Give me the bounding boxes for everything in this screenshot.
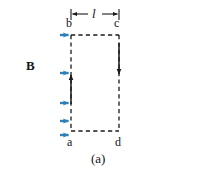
- magnetic-field-label: B: [26, 59, 35, 72]
- vertex-label-c: c: [114, 17, 119, 29]
- magnetic-field-lines: [14, 35, 205, 135]
- length-label: l: [92, 7, 96, 20]
- figure-canvas: [0, 0, 214, 173]
- magnetic-field-loop-figure: l b c B a d (a): [0, 0, 214, 173]
- vertex-label-d: d: [115, 136, 121, 148]
- vertex-label-a: a: [67, 136, 72, 148]
- figure-caption: (a): [91, 152, 105, 165]
- circuit-loop-dashed-rectangle: [71, 35, 119, 131]
- vertex-label-b: b: [66, 17, 72, 29]
